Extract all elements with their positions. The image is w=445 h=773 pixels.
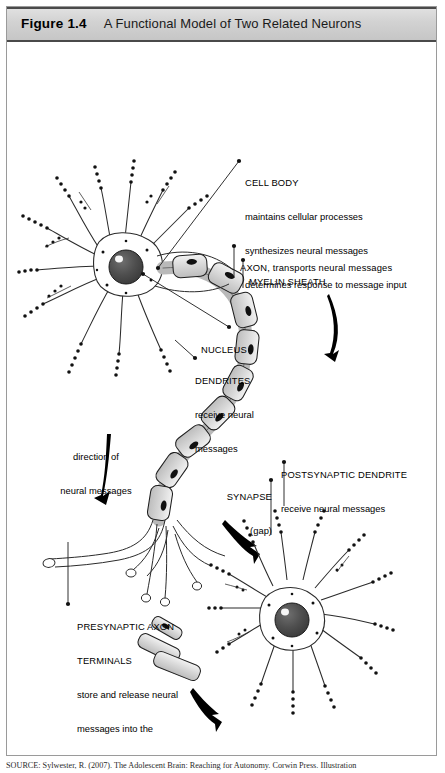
nucleus-bottom <box>275 603 309 637</box>
label-presynaptic-line1: store and release neural <box>77 689 178 700</box>
label-postsynaptic-line1: receive neural messages <box>281 503 407 514</box>
label-synapse: SYNAPSE (gap) <box>127 468 272 559</box>
label-myelin-sheath: MYELIN SHEATH <box>249 253 326 310</box>
figure-header: Figure 1.4 A Functional Model of Two Rel… <box>7 7 436 42</box>
label-myelin-heading: MYELIN SHEATH <box>249 276 326 287</box>
figure-frame: Figure 1.4 A Functional Model of Two Rel… <box>6 6 437 756</box>
label-postsynaptic-dendrite: POSTSYNAPTIC DENDRITE receive neural mes… <box>281 446 407 537</box>
label-direction-line1: direction of <box>41 451 151 462</box>
nucleus-top <box>109 250 143 284</box>
label-presynaptic-heading2: TERMINALS <box>77 655 178 666</box>
source-line: SOURCE: Sylwester, R. (2007). The Adoles… <box>6 761 445 770</box>
label-dendrites-line2: messages <box>195 443 254 454</box>
figure-body: CELL BODY maintains cellular processes s… <box>7 42 436 754</box>
nucleus-highlight-top <box>115 256 123 263</box>
label-dendrites-line1: receive neural <box>195 409 254 420</box>
nucleus-highlight-bottom <box>281 609 289 616</box>
label-dendrites: DENDRITES receive neural messages <box>195 352 254 477</box>
label-postsynaptic-heading: POSTSYNAPTIC DENDRITE <box>281 469 407 480</box>
label-presynaptic-axon-terminals: PRESYNAPTIC AXON TERMINALS store and rel… <box>77 598 178 754</box>
figure-title: A Functional Model of Two Related Neuron… <box>104 16 362 31</box>
label-presynaptic-heading1: PRESYNAPTIC AXON <box>77 621 178 632</box>
label-cell-body-heading: CELL BODY <box>245 177 407 188</box>
label-synapse-heading: SYNAPSE <box>127 491 272 502</box>
label-presynaptic-line2: messages into the <box>77 723 178 734</box>
figure-number: Figure 1.4 <box>21 16 87 31</box>
label-dendrites-heading: DENDRITES <box>195 375 254 386</box>
figure-header-inner: Figure 1.4 A Functional Model of Two Rel… <box>7 7 436 40</box>
label-synapse-line1: (gap) <box>127 525 272 536</box>
label-cell-body-line1: maintains cellular processes <box>245 211 407 222</box>
